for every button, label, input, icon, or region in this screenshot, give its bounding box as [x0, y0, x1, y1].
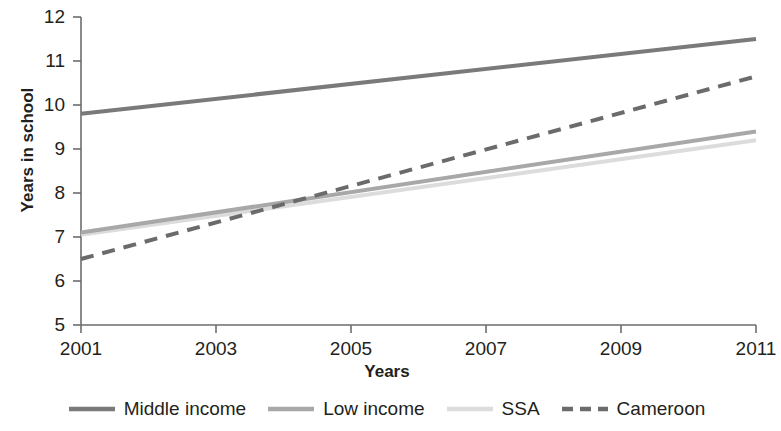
- legend-swatch-icon: [447, 402, 493, 416]
- legend-item[interactable]: Middle income: [69, 399, 247, 418]
- data-series-group: [81, 39, 756, 259]
- series-line-low-income: [81, 131, 756, 232]
- legend-item[interactable]: Low income: [268, 399, 424, 418]
- axes-lines: [73, 17, 756, 333]
- legend-swatch-icon: [69, 402, 115, 416]
- legend-swatch-icon: [268, 402, 314, 416]
- chart-legend: Middle incomeLow incomeSSACameroon: [0, 399, 774, 418]
- legend-label: Cameroon: [617, 399, 706, 418]
- legend-item[interactable]: SSA: [447, 399, 540, 418]
- legend-item[interactable]: Cameroon: [562, 399, 706, 418]
- series-line-ssa: [81, 140, 756, 235]
- x-axis-title: Years: [0, 362, 774, 382]
- legend-label: Low income: [323, 399, 424, 418]
- legend-label: SSA: [502, 399, 540, 418]
- legend-label: Middle income: [124, 399, 247, 418]
- legend-swatch-icon: [562, 402, 608, 416]
